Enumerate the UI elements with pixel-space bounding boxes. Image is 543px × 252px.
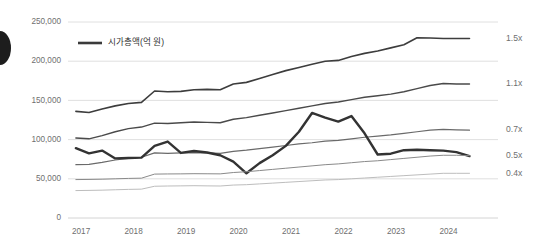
legend-label: 시가총액(억 원) — [108, 36, 164, 47]
y-axis-tick-label: 0 — [56, 213, 61, 222]
x-axis-tick-label: 2023 — [387, 227, 406, 236]
y-axis-tick-label: 100,000 — [31, 135, 61, 144]
series-line — [76, 38, 470, 113]
right-axis-annotation-label: 1.5x — [506, 33, 523, 43]
line-chart: 050,000100,000150,000200,000250,000 2017… — [0, 0, 543, 252]
series-line — [76, 173, 470, 190]
y-axis-tick-label: 50,000 — [36, 174, 61, 183]
x-axis-tick-label: 2018 — [124, 227, 143, 236]
x-axis-tick-label: 2024 — [439, 227, 458, 236]
right-axis-annotation-label: 0.7x — [506, 124, 523, 134]
x-axis-tick-label: 2020 — [229, 227, 248, 236]
x-axis-tick-labels: 20172018201920202021202220232024 — [72, 227, 458, 236]
y-axis-tick-label: 250,000 — [31, 17, 61, 26]
chart-canvas: 050,000100,000150,000200,000250,000 2017… — [0, 0, 543, 252]
right-axis-annotation-label: 0.4x — [506, 168, 523, 178]
y-axis-tick-label: 150,000 — [31, 96, 61, 105]
series-lines — [76, 38, 470, 191]
x-axis-tick-label: 2021 — [282, 227, 301, 236]
series-line — [76, 129, 470, 164]
corner-decoration — [0, 31, 11, 65]
series-line-main — [76, 113, 470, 173]
x-axis-tick-label: 2019 — [177, 227, 196, 236]
x-axis-tick-label: 2022 — [334, 227, 353, 236]
gridlines — [68, 22, 498, 218]
y-axis-tick-label: 200,000 — [31, 56, 61, 65]
x-axis-tick-label: 2017 — [72, 227, 91, 236]
right-axis-annotation-label: 1.1x — [506, 78, 523, 88]
chart-legend: 시가총액(억 원) — [78, 36, 164, 47]
right-axis-annotation-label: 0.5x — [506, 150, 523, 160]
series-line — [76, 84, 470, 139]
y-axis-tick-labels: 050,000100,000150,000200,000250,000 — [31, 17, 61, 222]
right-axis-annotations: 1.5x1.1x0.7x0.5x0.4x — [506, 33, 523, 178]
